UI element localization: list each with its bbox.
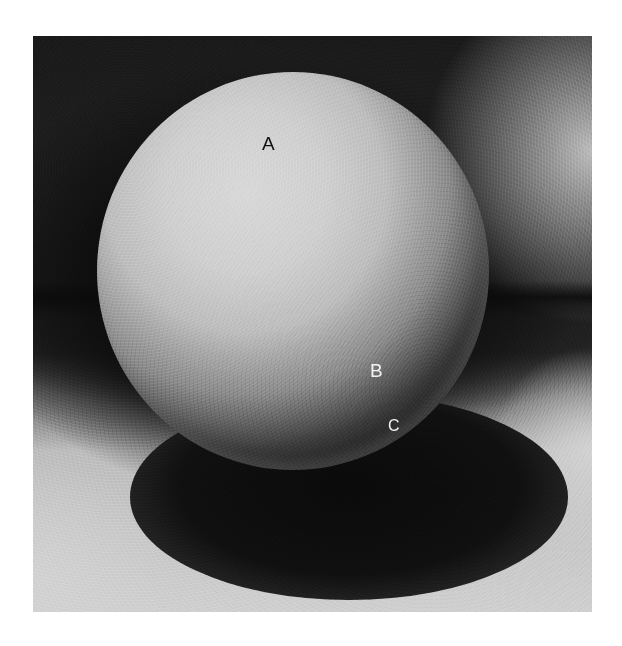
drawing-frame: A B C <box>33 36 592 612</box>
label-b-core-shadow: B <box>370 361 383 380</box>
label-c-reflected-light: C <box>388 418 400 434</box>
label-a-highlight: A <box>262 134 275 153</box>
sphere <box>97 72 489 470</box>
